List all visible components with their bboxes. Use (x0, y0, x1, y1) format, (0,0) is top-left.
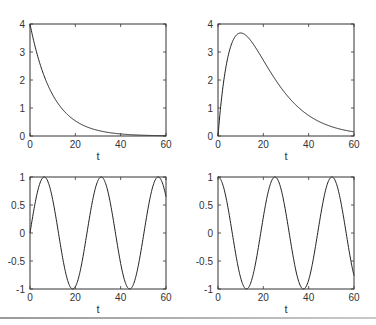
x-tick-label: 0 (215, 139, 221, 150)
x-tick-label: 60 (348, 292, 360, 303)
subplot-3: 0204060-1-0.500.51t (8, 172, 172, 316)
subplot-4: 0204060-1-0.500.51t (196, 172, 360, 316)
x-tick-label: 40 (303, 139, 315, 150)
y-tick-label: 0 (19, 228, 25, 239)
bottom-divider (0, 317, 376, 319)
y-tick-label: 1 (207, 103, 213, 114)
axes-frame (30, 24, 166, 136)
x-tick-label: 60 (160, 292, 172, 303)
x-tick-label: 0 (27, 292, 33, 303)
x-tick-label: 0 (215, 292, 221, 303)
x-tick-label: 20 (70, 292, 82, 303)
subplot-1: 020406001234t (19, 19, 172, 163)
x-tick-label: 60 (160, 139, 172, 150)
y-tick-label: 0 (19, 131, 25, 142)
series-line-exponential-decay (30, 24, 166, 136)
y-tick-label: 0.5 (11, 200, 25, 211)
x-tick-label: 20 (258, 292, 270, 303)
x-tick-label: 40 (303, 292, 315, 303)
x-tick-label: 20 (258, 139, 270, 150)
y-tick-label: -1 (16, 284, 25, 295)
axes-frame (30, 177, 166, 289)
y-tick-label: 0 (207, 228, 213, 239)
x-tick-label: 0 (27, 139, 33, 150)
x-tick-label: 60 (348, 139, 360, 150)
x-axis-label: t (284, 303, 287, 315)
y-tick-label: 4 (207, 19, 213, 30)
subplot-2: 020406001234t (207, 19, 360, 163)
axes-frame (218, 24, 354, 136)
figure: 020406001234t020406001234t0204060-1-0.50… (0, 0, 376, 325)
series-line-rise-and-decay (218, 33, 354, 136)
y-tick-label: -1 (204, 284, 213, 295)
x-tick-label: 40 (115, 292, 127, 303)
y-tick-label: 3 (207, 47, 213, 58)
x-tick-label: 40 (115, 139, 127, 150)
y-tick-label: -0.5 (8, 256, 26, 267)
series-line-cosine (218, 177, 354, 289)
y-tick-label: 1 (19, 172, 25, 183)
y-tick-label: 0.5 (199, 200, 213, 211)
y-tick-label: -0.5 (196, 256, 214, 267)
y-tick-label: 1 (207, 172, 213, 183)
x-axis-label: t (96, 303, 99, 315)
y-tick-label: 2 (19, 75, 25, 86)
y-tick-label: 4 (19, 19, 25, 30)
axes-frame (218, 177, 354, 289)
y-tick-label: 2 (207, 75, 213, 86)
y-tick-label: 0 (207, 131, 213, 142)
y-tick-label: 1 (19, 103, 25, 114)
x-axis-label: t (284, 150, 287, 162)
x-tick-label: 20 (70, 139, 82, 150)
x-axis-label: t (96, 150, 99, 162)
series-line-sine (30, 177, 166, 289)
y-tick-label: 3 (19, 47, 25, 58)
